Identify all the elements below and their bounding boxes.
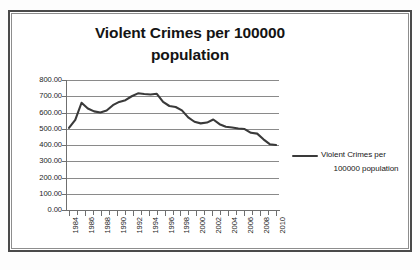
x-axis-tick xyxy=(173,211,174,215)
chart-frame: Violent Crimes per 100000 population 800… xyxy=(8,10,412,252)
x-axis-tick xyxy=(141,211,142,215)
x-axis-tick xyxy=(252,211,253,215)
scanned-page: Violent Crimes per 100000 population 800… xyxy=(0,0,420,270)
x-axis-tick xyxy=(149,211,150,216)
x-axis-tick-label: 1988 xyxy=(104,217,112,234)
x-axis-tick-label: 2002 xyxy=(215,217,223,234)
y-axis-tick-dashes xyxy=(10,80,66,210)
x-axis-tick xyxy=(276,211,277,216)
x-axis-tick xyxy=(228,211,229,216)
legend-line-swatch xyxy=(292,155,318,157)
x-axis-tick xyxy=(268,211,269,215)
x-axis-tick xyxy=(244,211,245,216)
x-axis-tick-label: 1998 xyxy=(183,217,191,234)
x-axis-tick-label: 1984 xyxy=(72,217,80,234)
x-axis-tick xyxy=(117,211,118,216)
x-axis-tick xyxy=(109,211,110,215)
x-axis-tick xyxy=(101,211,102,216)
x-axis-tick xyxy=(204,211,205,215)
x-axis-tick xyxy=(93,211,94,215)
x-axis-tick xyxy=(165,211,166,216)
x-axis-tick-label: 2000 xyxy=(199,217,207,234)
x-axis-tick-label: 1996 xyxy=(168,217,176,234)
x-axis-tick-label: 1990 xyxy=(120,217,128,234)
x-axis-tick xyxy=(69,211,70,216)
y-axis-line xyxy=(66,80,67,211)
x-axis-tick-label: 2006 xyxy=(247,217,255,234)
x-axis-tick xyxy=(220,211,221,215)
x-axis-tick xyxy=(260,211,261,216)
x-axis-tick-label: 1986 xyxy=(88,217,96,234)
x-axis-tick xyxy=(157,211,158,215)
x-axis-tick xyxy=(212,211,213,216)
violent-crime-line-series xyxy=(66,80,279,210)
x-axis-tick-label: 2004 xyxy=(231,217,239,234)
x-axis-tick-label: 2008 xyxy=(263,217,271,234)
x-axis-tick-label: 1992 xyxy=(136,217,144,234)
x-axis-tick-label: 2010 xyxy=(279,217,287,234)
x-axis-tick xyxy=(85,211,86,216)
x-axis-labels: 1984198619881990199219941996199820002002… xyxy=(66,217,279,253)
chart-title-line-2: population xyxy=(151,46,229,63)
legend-label-line-2: 100000 population xyxy=(321,162,411,176)
x-axis-tick xyxy=(180,211,181,216)
x-axis-tick-label: 1994 xyxy=(152,217,160,234)
x-axis-tick xyxy=(133,211,134,216)
x-axis-tick xyxy=(196,211,197,216)
x-axis-tick xyxy=(188,211,189,215)
chart-title-line-1: Violent Crimes per 100000 xyxy=(95,24,285,41)
x-axis-tick xyxy=(77,211,78,215)
x-axis-ticks xyxy=(66,211,279,216)
x-axis-tick xyxy=(236,211,237,215)
x-axis-tick xyxy=(125,211,126,215)
chart-title: Violent Crimes per 100000 population xyxy=(40,22,340,66)
legend-label-line-1: Violent Crimes per xyxy=(321,150,386,159)
plot-area xyxy=(66,80,279,210)
legend-label: Violent Crimes per 100000 population xyxy=(321,148,411,176)
